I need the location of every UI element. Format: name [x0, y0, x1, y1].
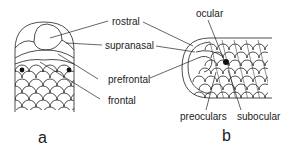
panel-label-b: b [222, 128, 231, 144]
left-eye-icon [20, 68, 25, 73]
dorsal-head-illustration [1, 22, 85, 114]
label-preoculars: preoculars [180, 112, 227, 122]
right-eye-icon [67, 68, 72, 73]
label-supranasal: supranasal [105, 41, 154, 51]
panel-label-a: a [38, 130, 47, 146]
label-rostral: rostral [112, 17, 140, 27]
lateral-head-illustration [182, 38, 277, 100]
label-subocular: subocular [237, 112, 280, 122]
label-frontal: frontal [108, 96, 136, 106]
label-ocular: ocular [196, 9, 223, 19]
label-prefrontal: prefrontal [108, 75, 150, 85]
